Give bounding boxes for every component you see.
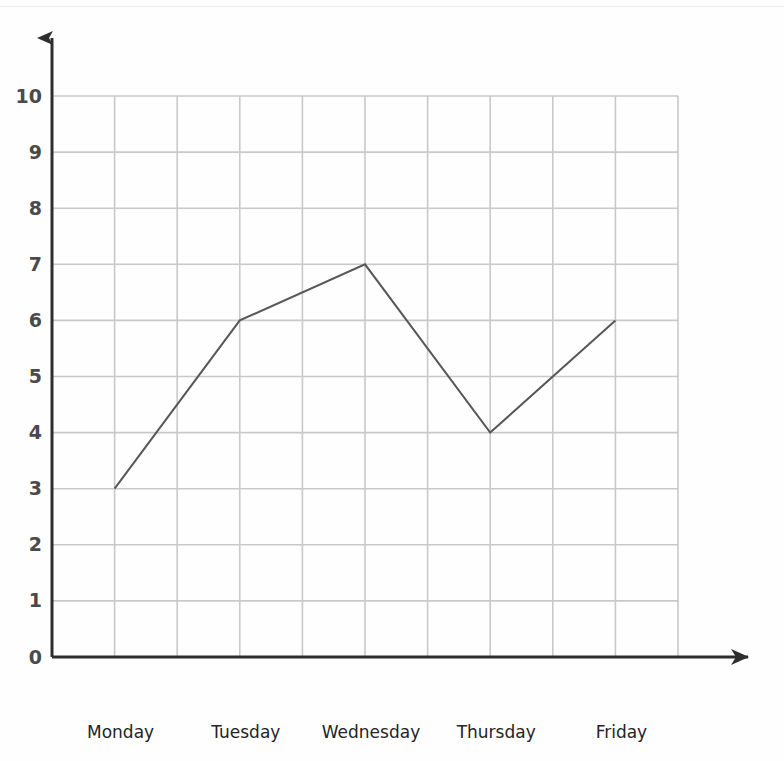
chart-axes <box>52 38 748 657</box>
y-axis-tick-label: 0 <box>29 646 42 668</box>
y-axis-tick-label: 10 <box>16 85 42 107</box>
x-axis-tick-label: Monday <box>87 722 154 742</box>
y-axis-tick-label: 3 <box>29 477 42 499</box>
x-axis-tick-label: Friday <box>596 722 648 742</box>
y-axis-tick-label: 8 <box>29 197 42 219</box>
y-axis-tick-labels: 012345678910 <box>16 85 42 668</box>
y-axis-tick-label: 1 <box>29 589 42 611</box>
x-axis-tick-label: Tuesday <box>210 722 280 742</box>
x-axis-tick-label: Wednesday <box>322 722 420 742</box>
line-chart: 012345678910 MondayTuesdayWednesdayThurs… <box>0 0 784 761</box>
x-axis-tick-label: Thursday <box>456 722 536 742</box>
chart-gridlines <box>52 96 678 657</box>
y-axis-tick-label: 5 <box>29 365 42 387</box>
chart-canvas: 012345678910 MondayTuesdayWednesdayThurs… <box>0 0 784 761</box>
y-axis-tick-label: 4 <box>29 421 42 443</box>
x-axis-tick-labels: MondayTuesdayWednesdayThursdayFriday <box>87 722 647 742</box>
y-axis-tick-label: 9 <box>29 141 42 163</box>
y-axis-tick-label: 7 <box>29 253 42 275</box>
y-axis-tick-label: 6 <box>29 309 42 331</box>
y-axis-tick-label: 2 <box>29 533 42 555</box>
